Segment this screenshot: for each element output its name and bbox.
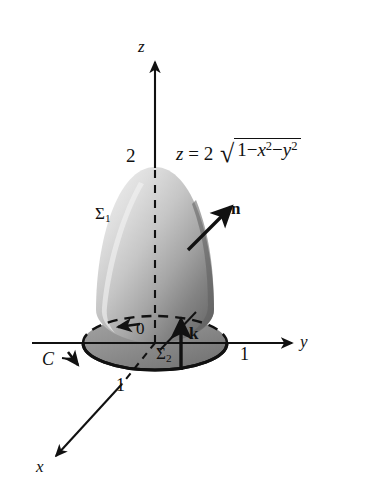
surface-equation-label: z = 2 √1−x2−y2 [176, 142, 301, 163]
sigma1-symbol: Σ [95, 204, 105, 223]
equation-equals: = [188, 143, 199, 164]
sigma1-subscript: 1 [105, 212, 111, 224]
surface-sigma2-label: Σ2 [156, 345, 172, 364]
surface-sigma1-label: Σ1 [95, 205, 111, 224]
axis-z-label: z [138, 38, 145, 55]
x-tick-1-label: 1 [116, 376, 125, 394]
radicand-y: y [283, 139, 291, 160]
radicand-one: 1 [237, 139, 247, 160]
radicand-minus-1: − [247, 139, 258, 160]
z-tick-2-label: 2 [126, 146, 136, 165]
radicand-x: x [257, 139, 265, 160]
sigma2-subscript: 2 [166, 352, 172, 364]
boundary-curve-label: C [42, 350, 54, 368]
radicand-y-exponent: 2 [291, 139, 297, 153]
radicand-minus-2: − [272, 139, 283, 160]
radical-sign: √ [220, 139, 234, 168]
sigma2-symbol: Σ [156, 344, 166, 363]
y-tick-1-label: 1 [240, 345, 249, 363]
origin-label: 0 [136, 320, 145, 337]
k-vector-label: k [189, 325, 198, 342]
equation-radical-group: √1−x2−y2 [218, 142, 301, 163]
axis-y-label: y [300, 333, 308, 350]
vector-calculus-diagram [0, 0, 368, 504]
radicand: 1−x2−y2 [234, 138, 300, 159]
equation-coefficient: 2 [204, 143, 214, 164]
axis-x-line [56, 384, 122, 456]
equation-lhs: z [176, 143, 183, 164]
normal-vector-label: n [231, 200, 240, 217]
axis-x-label: x [36, 458, 44, 475]
